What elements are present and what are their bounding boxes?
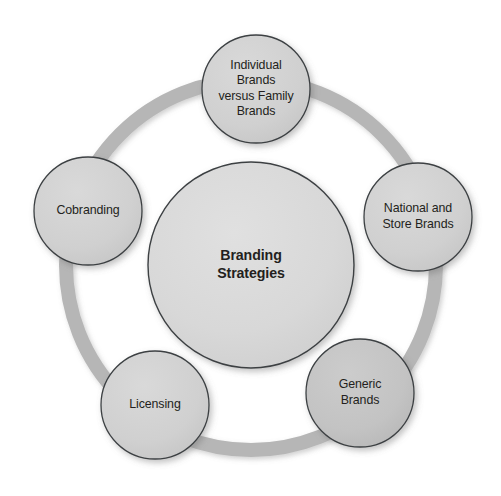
outer-node-licensing[interactable] xyxy=(101,351,209,459)
center-node-branding-strategies[interactable] xyxy=(148,162,354,368)
diagram-canvas xyxy=(0,0,501,496)
outer-node-national-and-store-brands[interactable] xyxy=(364,163,472,271)
outer-node-cobranding[interactable] xyxy=(34,157,142,265)
outer-node-generic-brands[interactable] xyxy=(306,339,414,447)
branding-strategies-diagram: Branding Strategies Individual Brands ve… xyxy=(0,0,501,496)
outer-node-individual-brands-versus-family-brands[interactable] xyxy=(202,35,310,143)
